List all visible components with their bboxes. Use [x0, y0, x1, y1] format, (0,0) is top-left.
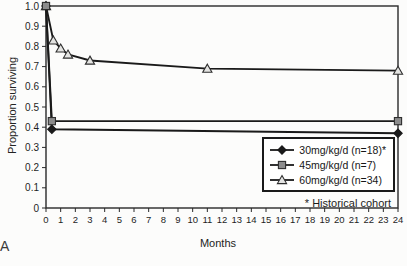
series-marker-1	[42, 2, 49, 9]
x-tick-label: 14	[246, 214, 257, 225]
x-tick-label: 18	[305, 214, 316, 225]
legend-item-0: 30mg/kg/d (n=18)*	[269, 142, 386, 157]
triangle-marker-icon	[269, 174, 295, 186]
x-tick-label: 23	[378, 214, 389, 225]
x-tick-label: 8	[161, 214, 166, 225]
diamond-marker-icon	[269, 144, 295, 156]
legend-marker	[278, 145, 286, 153]
x-tick-label: 12	[217, 214, 228, 225]
series-marker-0	[48, 125, 56, 133]
series-marker-1	[394, 118, 401, 125]
x-tick-label: 4	[102, 214, 107, 225]
y-axis-label: Proportion surviving	[6, 40, 19, 172]
figure: 00.10.20.30.40.50.60.70.80.91.0012345678…	[0, 0, 407, 266]
legend-item-1: 45mg/kg/d (n=7)	[269, 157, 386, 172]
chart-plot: 00.10.20.30.40.50.60.70.80.91.0012345678…	[0, 0, 407, 266]
series-line-1	[46, 6, 398, 121]
legend-marker	[279, 161, 286, 168]
x-tick-label: 1	[58, 214, 63, 225]
legend-footnote: * Historical cohort	[305, 197, 391, 209]
legend-label: 45mg/kg/d (n=7)	[299, 159, 376, 171]
y-tick-label: 0.5	[25, 102, 39, 113]
x-tick-label: 24	[393, 214, 404, 225]
series-marker-2	[49, 36, 58, 44]
x-tick-label: 9	[175, 214, 180, 225]
x-tick-label: 2	[73, 214, 78, 225]
legend-label: 30mg/kg/d (n=18)*	[299, 144, 386, 156]
panel-label: A	[0, 238, 9, 254]
legend-items: 30mg/kg/d (n=18)*45mg/kg/d (n=7)60mg/kg/…	[269, 142, 386, 187]
series-line-2	[46, 6, 398, 71]
x-tick-label: 13	[231, 214, 242, 225]
x-tick-label: 0	[43, 214, 48, 225]
y-tick-label: 0.9	[25, 21, 39, 32]
y-tick-label: 1.0	[25, 1, 39, 12]
legend-box: 30mg/kg/d (n=18)*45mg/kg/d (n=7)60mg/kg/…	[262, 137, 395, 192]
x-tick-label: 19	[319, 214, 330, 225]
legend-item-2: 60mg/kg/d (n=34)	[269, 172, 386, 187]
x-tick-label: 17	[290, 214, 301, 225]
x-tick-label: 22	[363, 214, 374, 225]
y-tick-label: 0.6	[25, 81, 39, 92]
series-marker-0	[394, 129, 402, 137]
y-tick-label: 0.4	[25, 122, 39, 133]
x-tick-label: 7	[146, 214, 151, 225]
x-tick-label: 3	[87, 214, 92, 225]
x-tick-label: 10	[187, 214, 198, 225]
y-tick-label: 0.1	[25, 182, 39, 193]
legend-label: 60mg/kg/d (n=34)	[299, 174, 382, 186]
x-tick-label: 11	[202, 214, 212, 225]
x-tick-label: 6	[131, 214, 136, 225]
x-axis-label: Months	[46, 237, 390, 249]
x-tick-label: 21	[349, 214, 360, 225]
square-marker-icon	[269, 159, 295, 171]
x-tick-label: 5	[117, 214, 122, 225]
y-tick-label: 0	[33, 203, 39, 214]
y-tick-label: 0.7	[25, 61, 39, 72]
x-tick-label: 20	[334, 214, 345, 225]
y-tick-label: 0.2	[25, 162, 39, 173]
y-tick-label: 0.3	[25, 142, 39, 153]
series-marker-1	[48, 118, 55, 125]
x-tick-label: 16	[275, 214, 286, 225]
y-tick-label: 0.8	[25, 41, 39, 52]
x-tick-label: 15	[261, 214, 272, 225]
